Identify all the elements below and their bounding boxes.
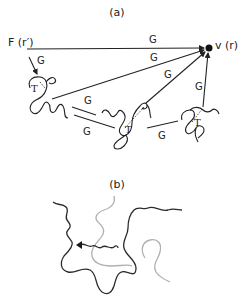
edge-p2-p3 [147,121,178,128]
edge-p1-p2-a [72,107,96,115]
node-v-dot [206,45,213,52]
g-label-p1-p2-a: G [84,95,92,106]
polymer-2-label: T [125,124,132,135]
dark-chain-branch [80,244,118,248]
panel-b-title: (b) [109,178,125,191]
edge-f-p1 [29,57,37,74]
node-f-label: F (r′) [8,36,33,49]
g-label-p1-p2-b: G [83,126,91,137]
polymer-1-label: T [31,83,38,94]
edge-p3-v [203,53,208,107]
dark-chain-group [53,202,182,294]
edge-f-v [27,48,204,49]
panel-a-title: (a) [109,6,124,19]
polymer-3-label: T [194,117,201,128]
diagram-canvas: (a) F (r′) v (r) G G G G G G G G T [0,0,243,302]
g-label-p1-v: G [150,52,158,63]
g-label-f-v: G [149,34,157,45]
arrowhead-icon [76,241,82,249]
node-v-label: v (r) [215,39,238,52]
g-label-p2-v: G [164,69,172,80]
edge-labels: G G G G G G G G [37,34,203,141]
edges [27,48,208,128]
light-chain-2 [142,240,170,282]
g-label-p2-p3: G [158,130,166,141]
edge-p1-p2-b [74,115,115,128]
light-chain-1 [92,196,132,266]
edge-p1-v [52,50,204,99]
g-label-p3-v: G [195,81,203,92]
g-label-f-p1: G [37,55,45,66]
